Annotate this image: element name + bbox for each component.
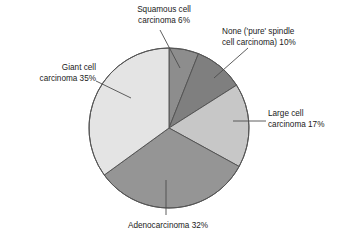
- label-large-cell-line1: Large cell: [268, 108, 341, 119]
- label-adenocarcinoma-line1: Adenocarcinoma 32%: [108, 220, 228, 231]
- label-large-cell: Large cell carcinoma 17%: [268, 108, 341, 130]
- pie-slices: [89, 48, 249, 208]
- label-giant-cell: Giant cell carcinoma 35%: [6, 62, 96, 84]
- label-spindle: None ('pure' spindle cell carcinoma) 10%: [222, 26, 340, 48]
- label-spindle-line1: None ('pure' spindle: [222, 26, 340, 37]
- label-spindle-line2: cell carcinoma) 10%: [222, 37, 340, 48]
- leader-line-spindle: [214, 48, 248, 78]
- label-adenocarcinoma: Adenocarcinoma 32%: [108, 220, 228, 231]
- label-large-cell-line2: carcinoma 17%: [268, 119, 341, 130]
- label-squamous-line1: Squamous cell: [116, 4, 212, 15]
- label-giant-cell-line1: Giant cell: [6, 62, 96, 73]
- label-squamous-line2: carcinoma 6%: [116, 15, 212, 26]
- label-giant-cell-line2: carcinoma 35%: [6, 73, 96, 84]
- label-squamous: Squamous cell carcinoma 6%: [116, 4, 212, 26]
- pie-chart-figure: Squamous cell carcinoma 6% None ('pure' …: [0, 0, 341, 240]
